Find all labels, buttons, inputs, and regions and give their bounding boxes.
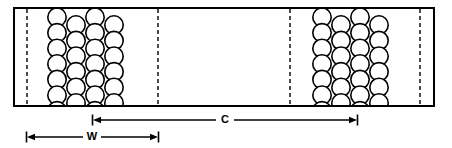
dimension-c-label: C [221, 113, 229, 125]
right-coil-pack [313, 8, 388, 120]
left-coil-pack [48, 8, 123, 120]
diagram-root: C W [0, 0, 452, 148]
dimension-w-label: W [87, 130, 98, 142]
technical-diagram: C W [0, 0, 452, 148]
